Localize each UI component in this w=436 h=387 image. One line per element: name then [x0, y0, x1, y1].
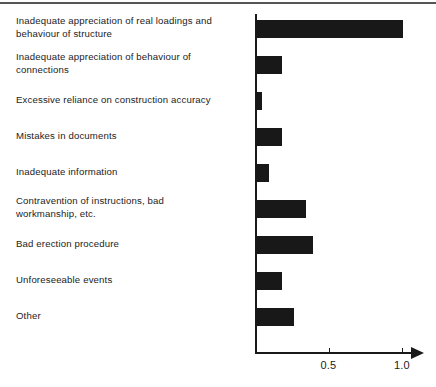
bar — [256, 200, 306, 218]
plot-area: 0.51.0 — [255, 14, 436, 354]
category-label: Contravention of instructions, bad workm… — [16, 195, 248, 220]
bar — [256, 128, 282, 146]
bar — [256, 308, 294, 326]
x-axis-tick-label: 1.0 — [394, 359, 410, 371]
x-axis-tick — [329, 348, 330, 354]
category-label-column: Inadequate appreciation of real loadings… — [16, 14, 248, 354]
bar — [256, 92, 262, 110]
bar — [256, 164, 269, 182]
bar — [256, 236, 313, 254]
category-label: Excessive reliance on construction accur… — [16, 94, 248, 107]
bar — [256, 20, 403, 38]
x-axis-tick-label: 0.5 — [321, 359, 337, 371]
category-label: Mistakes in documents — [16, 130, 248, 143]
bar-chart-figure: Inadequate appreciation of real loadings… — [0, 0, 436, 387]
x-axis-tick — [402, 348, 403, 354]
category-label: Bad erection procedure — [16, 238, 248, 251]
category-label: Inadequate appreciation of real loadings… — [16, 15, 248, 40]
x-axis-arrow-icon — [411, 347, 424, 359]
bar — [256, 56, 282, 74]
x-axis-line — [255, 352, 413, 354]
category-label: Inadequate information — [16, 166, 248, 179]
category-label: Unforeseeable events — [16, 274, 248, 287]
bar — [256, 272, 282, 290]
category-label: Inadequate appreciation of behaviour of … — [16, 51, 248, 76]
category-label: Other — [16, 310, 248, 323]
